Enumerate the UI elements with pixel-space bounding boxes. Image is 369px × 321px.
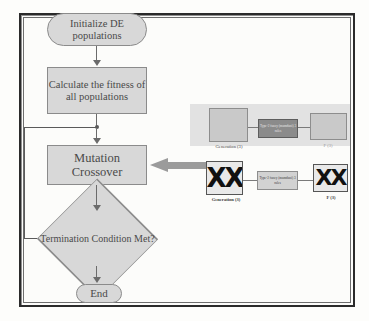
double-x-icon: XX [316,167,346,189]
panel-bottom-generation-tile[interactable]: XX [206,161,243,195]
node-initialize-de-populations[interactable]: Initialize DE populations [47,13,147,46]
node-end[interactable]: End [76,284,122,303]
panel-bottom-connector-right [298,180,313,181]
panel-bottom-f-label: F (3) [307,195,355,200]
double-x-icon: XX [206,165,242,191]
panel-bottom-generation-label: Generation (3) [196,197,256,202]
feedback-loop-horizontal-upper [24,127,96,128]
panel-top-f-label: F (3) [304,143,352,148]
panel-bottom-connector-left [243,180,257,181]
panel-bottom-f-tile[interactable]: XX [313,164,348,192]
connector-mutation-to-termination [96,185,97,205]
arrowhead-into-calculate [93,60,101,66]
panel-top-generation-label: Generation (3) [199,144,259,149]
panel-top-rule-box[interactable]: Type-2 fuzzy (mamdani) 3 rules [258,119,298,138]
panel-bottom-rule-box[interactable]: Type-2 fuzzy (mamdani) 3 rules [257,171,298,190]
connector-init-to-calculate [96,46,97,61]
arrowhead-into-end [93,277,101,283]
feed-arrow-head [150,158,168,172]
arrowhead-into-mutation [93,138,101,144]
feedback-loop-horizontal-lower [24,238,37,239]
decision-label: Termination Condition Met? [36,212,159,266]
panel-top-f-box[interactable] [310,113,347,140]
node-calculate-fitness[interactable]: Calculate the fitness of all populations [47,67,147,114]
node-termination-condition[interactable]: Termination Condition Met? [36,212,159,266]
arrowhead-into-termination [93,205,101,211]
panel-top-generation-box[interactable] [209,108,248,142]
feedback-loop-vertical [24,127,25,239]
